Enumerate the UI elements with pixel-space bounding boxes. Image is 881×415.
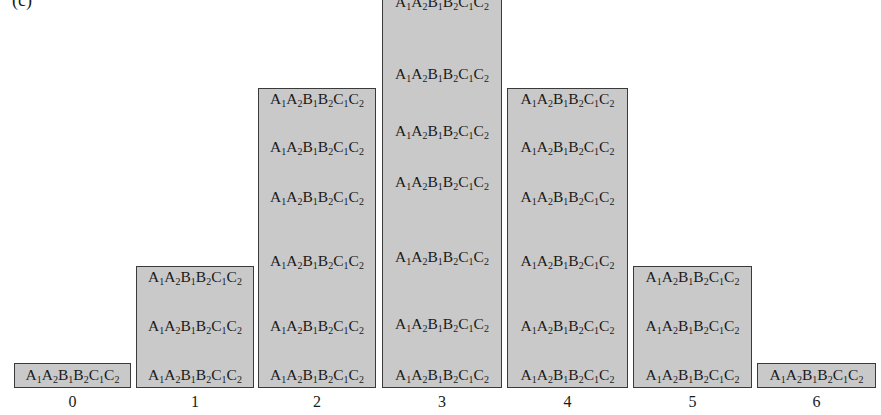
x-tick-label: 3 — [422, 393, 462, 411]
x-tick-label: 1 — [175, 393, 215, 411]
bar-class-2: A1A2B1B2C1C2A1A2B1B2C1C2A1A2B1B2C1C2A1A2… — [258, 88, 376, 388]
bar-class-4: A1A2B1B2C1C2A1A2B1B2C1C2A1A2B1B2C1C2A1A2… — [507, 88, 628, 388]
genotype-label: A1A2B1B2C1C2 — [259, 318, 375, 334]
genotype-label: A1A2B1B2C1C2 — [508, 139, 627, 155]
genotype-label: A1A2B1B2C1C2 — [383, 66, 501, 82]
x-tick-label: 6 — [797, 393, 837, 411]
genotype-label: A1A2B1B2C1C2 — [634, 367, 751, 383]
panel-label: (c) — [12, 0, 32, 11]
x-tick-label: 2 — [297, 393, 337, 411]
genotype-label: A1A2B1B2C1C2 — [259, 189, 375, 205]
genotype-label: A1A2B1B2C1C2 — [508, 253, 627, 269]
genotype-label: A1A2B1B2C1C2 — [758, 367, 875, 383]
genotype-label: A1A2B1B2C1C2 — [508, 367, 627, 383]
genotype-label: A1A2B1B2C1C2 — [137, 269, 253, 285]
genotype-label: A1A2B1B2C1C2 — [508, 189, 627, 205]
genotype-label: A1A2B1B2C1C2 — [634, 269, 751, 285]
genotype-label: A1A2B1B2C1C2 — [259, 367, 375, 383]
genotype-label: A1A2B1B2C1C2 — [383, 316, 501, 332]
genotype-label: A1A2B1B2C1C2 — [383, 249, 501, 265]
bar-class-5: A1A2B1B2C1C2A1A2B1B2C1C2A1A2B1B2C1C2 — [633, 266, 752, 388]
genotype-label: A1A2B1B2C1C2 — [383, 0, 501, 10]
genotype-label: A1A2B1B2C1C2 — [15, 367, 130, 383]
genotype-label: A1A2B1B2C1C2 — [508, 318, 627, 334]
genotype-label: A1A2B1B2C1C2 — [383, 367, 501, 383]
genotype-label: A1A2B1B2C1C2 — [383, 174, 501, 190]
genotype-label: A1A2B1B2C1C2 — [259, 91, 375, 107]
bar-class-6: A1A2B1B2C1C2 — [757, 363, 876, 388]
genotype-label: A1A2B1B2C1C2 — [259, 139, 375, 155]
genotype-label: A1A2B1B2C1C2 — [508, 91, 627, 107]
genotype-label: A1A2B1B2C1C2 — [383, 123, 501, 139]
x-tick-label: 0 — [53, 393, 93, 411]
genotype-label: A1A2B1B2C1C2 — [634, 318, 751, 334]
bar-class-1: A1A2B1B2C1C2A1A2B1B2C1C2A1A2B1B2C1C2 — [136, 266, 254, 388]
bar-class-0: A1A2B1B2C1C2 — [14, 363, 131, 388]
x-tick-label: 5 — [673, 393, 713, 411]
genotype-label: A1A2B1B2C1C2 — [137, 367, 253, 383]
genotype-label: A1A2B1B2C1C2 — [137, 318, 253, 334]
x-tick-label: 4 — [548, 393, 588, 411]
bar-class-3: A1A2B1B2C1C2A1A2B1B2C1C2A1A2B1B2C1C2A1A2… — [382, 0, 502, 388]
genotype-label: A1A2B1B2C1C2 — [259, 253, 375, 269]
